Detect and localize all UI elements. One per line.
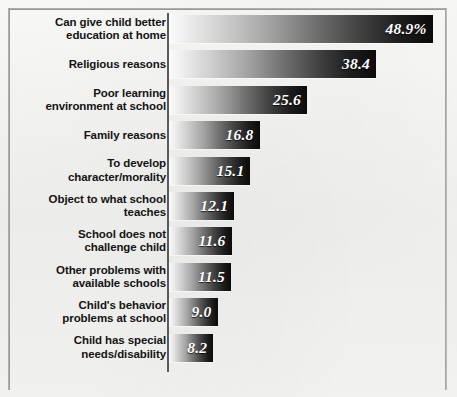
category-label: School does not challenge child — [1, 228, 166, 254]
bar-row: Other problems with available schools11.… — [0, 263, 457, 291]
bar-track: 11.5 — [169, 263, 231, 291]
bar-value-label: 16.8 — [226, 126, 254, 144]
bar-track: 15.1 — [169, 157, 250, 185]
bar-row: Can give child better education at home4… — [0, 15, 457, 43]
category-label: Poor learning environment at school — [1, 87, 166, 113]
bar-value-label: 38.4 — [342, 55, 370, 73]
category-label: Can give child better education at home — [1, 16, 166, 42]
category-label: Child has special needs/disability — [1, 334, 166, 360]
bar-track: 38.4 — [169, 50, 376, 78]
bar-chart-plot: Can give child better education at home4… — [0, 0, 457, 397]
bar: 8.2 — [169, 334, 213, 362]
bar-row: To develop character/morality15.1 — [0, 157, 457, 185]
bar-track: 8.2 — [169, 334, 213, 362]
bar-row: Child has special needs/disability8.2 — [0, 334, 457, 362]
bar-row: Child's behavior problems at school9.0 — [0, 298, 457, 326]
bar-row: Poor learning environment at school25.6 — [0, 86, 457, 114]
bar-track: 16.8 — [169, 121, 260, 149]
bar: 38.4 — [169, 50, 376, 78]
category-label: To develop character/morality — [1, 157, 166, 183]
bar-value-label: 8.2 — [187, 339, 207, 357]
bar: 11.5 — [169, 263, 231, 291]
bar-track: 9.0 — [169, 298, 218, 326]
bar-value-label: 11.6 — [198, 232, 225, 250]
chart-page: Can give child better education at home4… — [0, 0, 457, 397]
bar-track: 12.1 — [169, 192, 234, 220]
category-label: Religious reasons — [1, 58, 166, 71]
bar: 48.9% — [169, 15, 433, 43]
bar: 25.6 — [169, 86, 307, 114]
category-label: Family reasons — [1, 129, 166, 142]
bar-value-label: 11.5 — [198, 268, 225, 286]
category-label: Other problems with available schools — [1, 264, 166, 290]
bar-value-label: 12.1 — [200, 197, 228, 215]
bar: 15.1 — [169, 157, 250, 185]
bar-value-label: 48.9% — [386, 20, 427, 38]
category-label: Object to what school teaches — [1, 193, 166, 219]
bar-row: Religious reasons38.4 — [0, 50, 457, 78]
category-label: Child's behavior problems at school — [1, 299, 166, 325]
bar: 16.8 — [169, 121, 260, 149]
bar-track: 25.6 — [169, 86, 307, 114]
bar: 11.6 — [169, 227, 232, 255]
bar-row: Family reasons16.8 — [0, 121, 457, 149]
bar-track: 11.6 — [169, 227, 232, 255]
bar-value-label: 9.0 — [192, 303, 212, 321]
bar-row: School does not challenge child11.6 — [0, 227, 457, 255]
bar-row: Object to what school teaches12.1 — [0, 192, 457, 220]
bar: 12.1 — [169, 192, 234, 220]
bar: 9.0 — [169, 298, 218, 326]
bar-value-label: 15.1 — [216, 162, 244, 180]
bar-value-label: 25.6 — [273, 91, 301, 109]
bar-track: 48.9% — [169, 15, 433, 43]
